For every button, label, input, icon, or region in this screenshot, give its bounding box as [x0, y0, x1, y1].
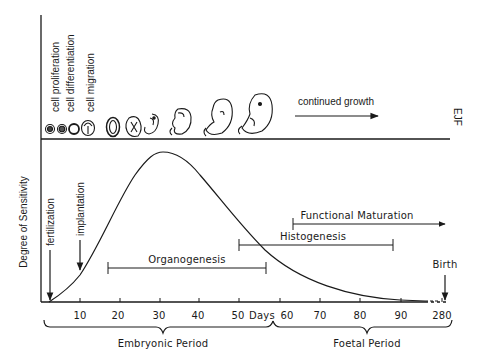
y-axis-label: Degree of Sensitivity — [18, 176, 29, 268]
foetal-period-label: Foetal Period — [333, 338, 400, 349]
x-tick-label: 90 — [394, 310, 407, 321]
x-tick-label: 40 — [191, 310, 204, 321]
embryo-week8-icon — [238, 94, 272, 134]
x-tick-label: 80 — [353, 310, 366, 321]
x-axis-unit-label: Days — [249, 310, 275, 321]
x-tick-label: 10 — [73, 310, 86, 321]
embryo-stage-icons — [46, 94, 273, 137]
functional-maturation-label: Functional Maturation — [300, 210, 413, 221]
x-tick-label: 30 — [152, 310, 165, 321]
cell-migration-label: cell migration — [85, 53, 96, 112]
organogenesis-label: Organogenesis — [148, 254, 226, 265]
embryonic-period-label: Embryonic Period — [118, 338, 209, 349]
neurula-icon — [107, 118, 120, 137]
embryo-week6-icon — [204, 99, 232, 136]
blastocyst-icon — [69, 124, 79, 134]
foetal-period-brace — [273, 320, 452, 333]
x-tick-label: 50 — [231, 310, 244, 321]
embryo-week4-icon — [145, 114, 159, 134]
cell-differentiation-label: cell differentiation — [65, 34, 76, 112]
morula-icon — [58, 125, 67, 134]
histogenesis-label: Histogenesis — [280, 231, 346, 242]
embryonic-period-brace — [44, 320, 273, 333]
continued-growth-label: continued growth — [298, 96, 374, 107]
birth-label: Birth — [432, 259, 457, 270]
embryo-week5-icon — [170, 109, 191, 135]
fertilization-label: fertilization — [45, 198, 56, 246]
x-tick-label: 280 — [432, 310, 452, 321]
x-tick-label: 20 — [111, 310, 124, 321]
gastrula-icon — [82, 121, 95, 136]
teratogen-sensitivity-diagram: 10 20 30 40 50 Days 60 70 80 90 280 Embr… — [0, 0, 481, 362]
cell-proliferation-label: cell proliferation — [50, 42, 61, 112]
implantation-label: implantation — [75, 182, 86, 236]
x-tick-label: 60 — [280, 310, 293, 321]
x-tick-label: 70 — [313, 310, 326, 321]
zygote-icon — [46, 125, 55, 134]
sensitivity-curve — [49, 152, 425, 302]
signature-mark: EJF — [452, 108, 463, 126]
early-embryo-icon — [126, 117, 141, 137]
